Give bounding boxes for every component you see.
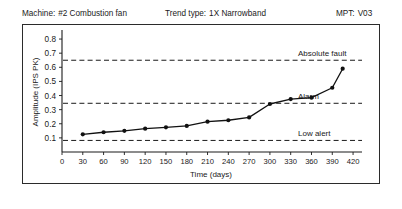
chart-header: Machine:#2 Combustion fan Trend type:1X …	[22, 8, 382, 22]
header-trend-type-value: 1X Narrowband	[209, 9, 266, 18]
header-trend-type-label: Trend type:	[165, 9, 206, 18]
header-mpt-value: V03	[358, 9, 373, 18]
header-machine-value: #2 Combustion fan	[58, 9, 127, 18]
header-machine-field: Machine:#2 Combustion fan	[22, 8, 127, 20]
header-trend-type-field: Trend type:1X Narrowband	[165, 8, 266, 20]
header-mpt-label: MPT:	[336, 9, 355, 18]
screenshot-root: Machine:#2 Combustion fan Trend type:1X …	[0, 0, 402, 209]
header-mpt-field: MPT:V03	[336, 8, 372, 20]
figure-border	[22, 24, 380, 184]
header-machine-label: Machine:	[22, 9, 55, 18]
